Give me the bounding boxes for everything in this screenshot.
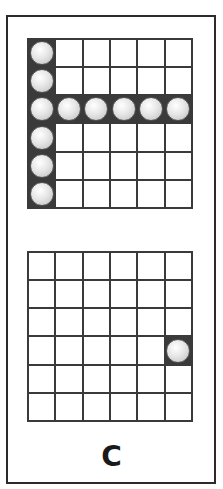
grid-cell — [166, 253, 191, 279]
grid-cell — [138, 40, 163, 66]
grid-cell — [138, 253, 163, 279]
grid-cell — [166, 68, 191, 94]
grid-cell — [56, 309, 81, 335]
grid-cell — [138, 366, 163, 392]
grid-cell — [138, 181, 163, 207]
grid-cell — [56, 394, 81, 420]
grid-cell — [166, 181, 191, 207]
ball-icon — [84, 97, 108, 121]
grid-cell — [138, 394, 163, 420]
grid-cell — [29, 253, 54, 279]
grid-cell — [111, 394, 136, 420]
grid-cell — [84, 253, 109, 279]
grid-cell — [84, 153, 109, 179]
grid-cell — [111, 153, 136, 179]
grid-cell — [111, 181, 136, 207]
grid-cell — [111, 124, 136, 150]
grid-cell — [29, 181, 54, 207]
grid-cell — [29, 366, 54, 392]
grid-cell — [111, 253, 136, 279]
grid-cell — [166, 40, 191, 66]
grid-cell — [166, 309, 191, 335]
top-grid — [27, 38, 193, 209]
ball-icon — [30, 182, 54, 206]
grid-cell — [56, 68, 81, 94]
grid-cell — [56, 366, 81, 392]
ball-icon — [30, 69, 54, 93]
grid-cell — [84, 181, 109, 207]
ball-icon — [139, 97, 163, 121]
grid-cell — [29, 40, 54, 66]
grid-cell — [84, 394, 109, 420]
figure-label: C — [0, 440, 223, 473]
grid-cell — [84, 309, 109, 335]
grid-cell — [166, 281, 191, 307]
grid-cell — [29, 68, 54, 94]
grid-cell — [138, 281, 163, 307]
grid-cell — [111, 309, 136, 335]
grid-cell — [56, 337, 81, 363]
grid-cell — [84, 40, 109, 66]
grid-cell — [84, 68, 109, 94]
grid-cell — [29, 337, 54, 363]
grid-cell — [166, 394, 191, 420]
grid-cell — [29, 96, 54, 122]
grid-cell — [56, 40, 81, 66]
grid-cell — [84, 366, 109, 392]
grid-cell — [111, 281, 136, 307]
grid-cell — [138, 309, 163, 335]
grid-cell — [138, 68, 163, 94]
grid-cell — [111, 337, 136, 363]
grid-cell — [138, 124, 163, 150]
grid-cell — [29, 281, 54, 307]
ball-icon — [112, 97, 136, 121]
grid-cell — [56, 253, 81, 279]
grid-cell — [111, 366, 136, 392]
grid-cell — [29, 124, 54, 150]
grid-cell — [56, 281, 81, 307]
ball-icon — [166, 97, 190, 121]
grid-cell — [84, 337, 109, 363]
grid-cell — [166, 96, 191, 122]
grid-cell — [111, 96, 136, 122]
grid-cell — [84, 96, 109, 122]
grid-cell — [166, 153, 191, 179]
grid-cell — [84, 124, 109, 150]
grid-cell — [84, 281, 109, 307]
grid-cell — [56, 124, 81, 150]
ball-icon — [30, 126, 54, 150]
grid-cell — [166, 124, 191, 150]
grid-cell — [138, 96, 163, 122]
ball-icon — [30, 41, 54, 65]
grid-cell — [111, 40, 136, 66]
grid-cell — [56, 181, 81, 207]
grid-cell — [56, 96, 81, 122]
ball-icon — [57, 97, 81, 121]
grid-cell — [166, 366, 191, 392]
grid-cell — [166, 337, 191, 363]
bottom-grid — [27, 251, 193, 422]
grid-cell — [111, 68, 136, 94]
grid-cell — [29, 394, 54, 420]
ball-icon — [166, 339, 190, 363]
grid-cell — [29, 309, 54, 335]
ball-icon — [30, 97, 54, 121]
grid-cell — [138, 153, 163, 179]
ball-icon — [30, 154, 54, 178]
grid-cell — [56, 153, 81, 179]
grid-cell — [29, 153, 54, 179]
grid-cell — [138, 337, 163, 363]
